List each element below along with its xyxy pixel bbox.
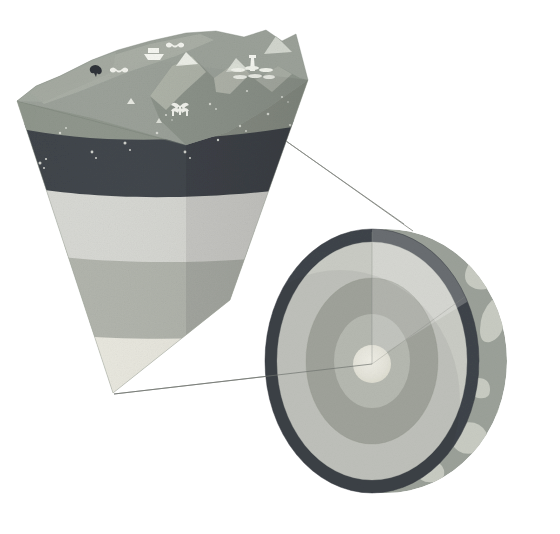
illustration-canvas: Earth Internal Structure Cutaway Illustr… [0,0,560,534]
earth-structure-illustration [0,0,560,534]
